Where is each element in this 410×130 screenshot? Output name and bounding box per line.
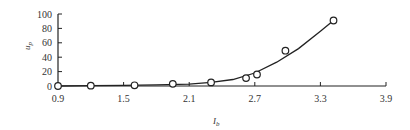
data-point-marker	[330, 17, 337, 24]
data-point-marker	[55, 83, 62, 90]
y-tick-label: 40	[42, 52, 52, 63]
y-tick-label: 80	[42, 23, 52, 34]
y-tick-label: 0	[47, 81, 52, 92]
data-point-marker	[170, 81, 177, 88]
data-point-marker	[282, 47, 289, 54]
data-points	[55, 17, 337, 89]
x-tick-label: 3.9	[380, 93, 393, 104]
data-point-marker	[131, 82, 138, 89]
data-point-marker	[208, 79, 215, 86]
data-point-marker	[254, 71, 261, 78]
data-point-marker	[88, 82, 95, 89]
fit-curve	[58, 21, 334, 87]
x-tick-label: 2.7	[249, 93, 262, 104]
chart: 0.91.52.12.73.33.9020406080100 Ib up	[0, 0, 410, 130]
y-tick-label: 60	[42, 37, 52, 48]
axes: 0.91.52.12.73.33.9020406080100	[37, 9, 392, 105]
x-tick-label: 0.9	[52, 93, 65, 104]
x-axis-title: Ib	[212, 116, 220, 128]
x-tick-label: 3.3	[314, 93, 327, 104]
x-tick-label: 2.1	[183, 93, 196, 104]
x-tick-label: 1.5	[117, 93, 130, 104]
y-tick-label: 20	[42, 66, 52, 77]
data-point-marker	[243, 75, 250, 82]
y-axis-title: up	[22, 42, 34, 51]
y-tick-label: 100	[37, 9, 52, 20]
